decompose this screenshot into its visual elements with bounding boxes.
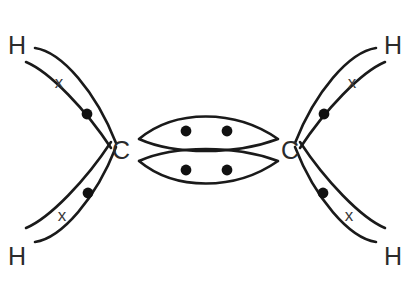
cc-bond-lens-lower — [139, 149, 278, 184]
ch-bond-bottom-right-dot — [318, 188, 329, 199]
atom-label-hydrogen-top-right: H — [384, 31, 402, 59]
ch-bond-top-left: x — [26, 48, 116, 148]
ch-bond-bottom-left-dot — [83, 188, 94, 199]
ch-bond-top-right-outline — [295, 48, 385, 148]
atom-label-hydrogen-top-left: H — [8, 31, 26, 59]
cc-bond-lens-upper — [139, 117, 278, 152]
cc-bond-lens-upper-dot-2 — [222, 126, 233, 137]
cc-bond-lens-upper-dot-1 — [181, 126, 192, 137]
atom-label-hydrogen-bottom-right: H — [384, 242, 402, 270]
ch-bond-bottom-right-outline — [295, 142, 385, 242]
ch-bond-bottom-left-cross: x — [58, 206, 67, 225]
cc-bond-lens-lower-outline — [139, 149, 278, 184]
atom-label-carbon-right: C — [281, 136, 299, 164]
ch-bond-bottom-left: x — [26, 142, 116, 242]
ch-bond-top-right-cross: x — [348, 73, 357, 92]
ch-bond-top-right: x — [295, 48, 385, 148]
ch-bond-top-right-dot — [319, 109, 330, 120]
ch-bond-top-left-dot — [82, 109, 93, 120]
ch-bond-top-left-cross: x — [55, 73, 64, 92]
molecule-canvas: x x x x C C — [0, 0, 410, 289]
cc-bond-lens-upper-outline — [139, 117, 278, 152]
cc-bond-lens-lower-dot-2 — [222, 165, 233, 176]
cc-bond-lens-lower-dot-1 — [181, 165, 192, 176]
ch-bond-top-left-outline — [26, 48, 116, 148]
atom-label-carbon-left: C — [112, 136, 130, 164]
dot-and-cross-diagram: x x x x C C — [0, 0, 410, 289]
atom-label-hydrogen-bottom-left: H — [8, 242, 26, 270]
ch-bond-bottom-right-cross: x — [345, 206, 354, 225]
ch-bond-bottom-left-outline — [26, 142, 116, 242]
ch-bond-bottom-right: x — [295, 142, 385, 242]
